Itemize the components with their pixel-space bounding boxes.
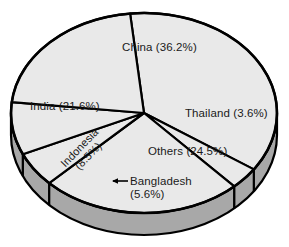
slice-label-china-text: China (36.2%) xyxy=(122,41,197,53)
slice-label-thailand: Thailand (3.6%) xyxy=(185,107,268,120)
slice-label-others-text: Others (24.5%) xyxy=(148,145,227,157)
slice-label-thailand-text: Thailand (3.6%) xyxy=(185,107,268,119)
pie-chart-graphic xyxy=(0,0,289,247)
slice-label-india: India (21.6%) xyxy=(30,100,100,113)
pie-chart: China (36.2%) India (21.6%) Thailand (3.… xyxy=(0,0,289,247)
slice-label-bangladesh-line2: (5.6%) xyxy=(130,188,208,201)
slice-label-india-text: India (21.6%) xyxy=(30,100,100,112)
slice-label-china: China (36.2%) xyxy=(122,41,197,54)
slice-label-bangladesh: Bangladesh (5.6%) xyxy=(130,175,208,200)
slice-label-bangladesh-line1: Bangladesh xyxy=(130,175,208,188)
slice-label-others: Others (24.5%) xyxy=(148,145,227,158)
